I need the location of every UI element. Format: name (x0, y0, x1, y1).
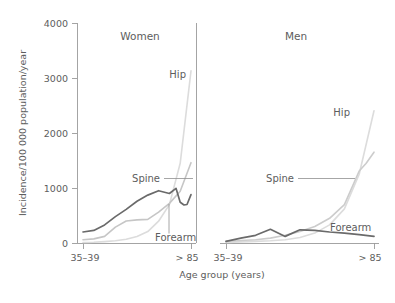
panel-title-women: Women (120, 30, 160, 42)
x-tick-label-men-last: > 85 (358, 252, 381, 263)
series-line-women-spine (83, 188, 191, 232)
chart-figure: 4000 3000 2000 1000 0 Incidence/100 000 … (0, 0, 395, 303)
series-group-women (83, 71, 191, 243)
x-tick-label-women-first: 35–39 (71, 252, 100, 263)
y-tick-label-3000: 3000 (44, 73, 68, 84)
x-axis-men: 35–39 > 85 (214, 243, 382, 263)
y-tick-label-4000: 4000 (44, 18, 68, 29)
x-axis-title: Age group (years) (179, 269, 265, 280)
annotation-label-men-spine: Spine (266, 173, 294, 184)
x-tick-label-men-first: 35–39 (214, 252, 243, 263)
x-axis-women: 35–39 > 85 (71, 243, 199, 263)
annotation-label-women-hip: Hip (169, 69, 186, 80)
y-tick-label-0: 0 (62, 238, 68, 249)
y-tick-label-1000: 1000 (44, 183, 68, 194)
annotation-label-women-forearm: Forearm (155, 232, 196, 243)
annotation-women-hip: Hip (169, 69, 186, 80)
y-axis-title: Incidence/100 000 population/year (17, 50, 28, 216)
annotation-label-women-spine: Spine (132, 173, 160, 184)
chart-canvas: 4000 3000 2000 1000 0 Incidence/100 000 … (0, 0, 395, 303)
panel-title-men: Men (285, 30, 307, 42)
y-tick-label-2000: 2000 (44, 128, 68, 139)
annotation-label-men-forearm: Forearm (330, 222, 371, 233)
annotation-men-spine: Spine (266, 173, 355, 184)
annotation-men-forearm: Forearm (330, 222, 371, 233)
x-tick-label-women-last: > 85 (175, 252, 198, 263)
annotation-label-men-hip: Hip (333, 107, 350, 118)
y-axis: 4000 3000 2000 1000 0 Incidence/100 000 … (17, 18, 77, 249)
series-line-women-hip (83, 71, 191, 243)
annotation-men-hip: Hip (333, 107, 350, 118)
